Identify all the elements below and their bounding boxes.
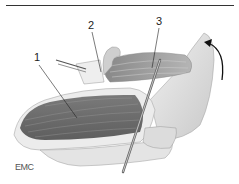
label-2: 2 <box>88 20 94 31</box>
anatomical-illustration <box>0 0 239 184</box>
publisher-logo: EMC <box>15 162 34 172</box>
right-tissue-mass <box>150 33 214 140</box>
label-1: 1 <box>34 52 40 63</box>
label-3: 3 <box>156 16 162 27</box>
tendon-sheet-2 <box>56 60 104 84</box>
